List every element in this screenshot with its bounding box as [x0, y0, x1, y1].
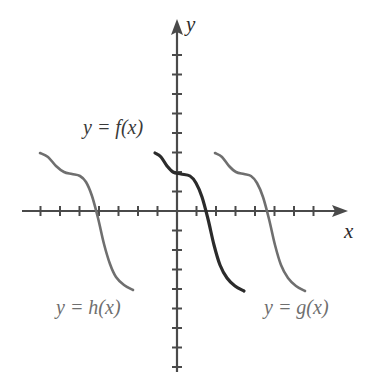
y-axis-label: y [186, 12, 195, 37]
curve-g [215, 153, 305, 291]
curve-label-g: y = g(x) [264, 296, 329, 319]
curve-label-h: y = h(x) [56, 296, 121, 319]
graph-figure: y x y = f(x) y = h(x) y = g(x) [0, 0, 384, 382]
curve-h [40, 153, 133, 290]
coordinate-plot [0, 0, 384, 382]
curve-label-f: y = f(x) [83, 116, 143, 139]
axes-group [22, 19, 348, 372]
x-axis-label: x [344, 219, 353, 244]
curve-f [155, 153, 244, 291]
